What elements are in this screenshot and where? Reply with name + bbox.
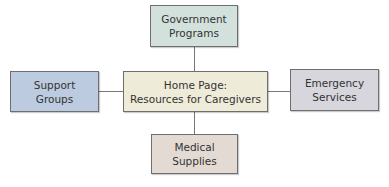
node-label: Resources for Caregivers: [130, 93, 261, 105]
connector-bottom: [194, 112, 195, 134]
connector-right: [268, 91, 290, 92]
node-home-page: Home Page:Resources for Caregivers: [123, 71, 268, 112]
node-medical-supplies: MedicalSupplies: [151, 134, 238, 174]
node-label: Groups: [36, 93, 73, 105]
node-label: Medical: [174, 141, 214, 153]
node-label: Supplies: [172, 155, 216, 167]
node-label: Government: [161, 13, 226, 25]
node-label: Support: [34, 79, 76, 91]
node-label: Emergency: [305, 77, 364, 89]
node-label: Home Page:: [164, 79, 227, 91]
node-emergency-services: EmergencyServices: [290, 69, 379, 111]
node-label: Programs: [169, 27, 219, 39]
node-support-groups: SupportGroups: [10, 71, 99, 112]
node-label: Services: [312, 91, 356, 103]
connector-left: [99, 91, 123, 92]
node-government-programs: GovernmentPrograms: [150, 5, 238, 47]
connector-top: [194, 47, 195, 71]
